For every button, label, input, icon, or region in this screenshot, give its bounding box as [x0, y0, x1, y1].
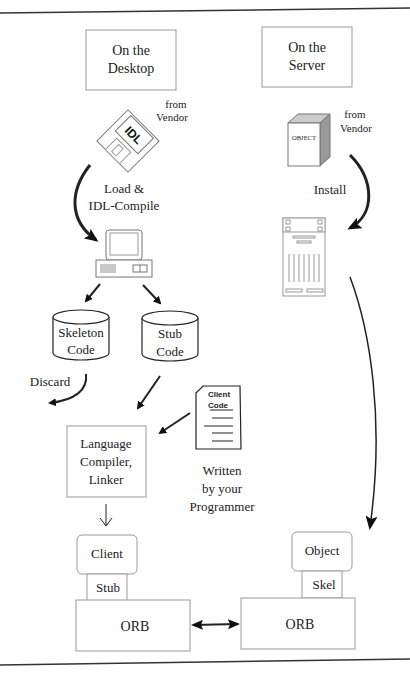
written-label-line1: Written [202, 463, 242, 478]
install-arrow [350, 155, 369, 228]
server-to-object-arrow [350, 277, 376, 527]
load-label: Load & [104, 181, 144, 196]
object-box-label: OBJECT [292, 134, 316, 141]
stub-code-label-line2: Code [156, 344, 184, 359]
desktop-header-line1: On the [112, 43, 150, 58]
bottom-rule [0, 659, 410, 665]
server-header-box: On the Server [262, 27, 352, 87]
skeleton-code-cylinder: Skeleton Code [53, 310, 109, 360]
stub-code-cylinder: Stub Code [142, 311, 198, 361]
server-machine-icon [283, 218, 325, 296]
written-label-line3: Programmer [190, 499, 256, 514]
written-label-line2: by your [202, 481, 243, 496]
compiler-label-line3: Linker [89, 472, 124, 487]
compiler-label-line2: Compiler, [80, 454, 132, 469]
orb-bidirectional-arrow [193, 624, 238, 625]
client-code-label-line1: Client [208, 390, 231, 399]
client-label: Client [91, 546, 123, 561]
client-orb-label: ORB [121, 619, 150, 634]
skeleton-label-line2: Code [67, 342, 95, 357]
skel-label: Skel [312, 577, 336, 592]
compiler-label-line1: Language [80, 436, 131, 451]
corba-diagram: On the Desktop On the Server IDL from Ve… [0, 0, 410, 682]
idl-floppy-disk-icon: IDL [97, 110, 159, 172]
idl-from-label: from [165, 98, 187, 110]
desktop-computer-icon [96, 230, 152, 277]
stub-code-label-line1: Stub [158, 326, 182, 341]
client-stack: Client Stub ORB [76, 535, 190, 651]
compiler-to-client-arrow [100, 504, 112, 526]
vendor-object-box-icon: OBJECT [288, 114, 330, 166]
skeleton-label-line1: Skeleton [58, 325, 104, 340]
client-code-document-icon: Client Code [196, 386, 241, 449]
client-code-label-line2: Code [208, 401, 229, 410]
stub-to-compiler-arrow [138, 376, 160, 408]
server-orb-label: ORB [286, 617, 315, 632]
client-code-to-compiler-arrow [160, 413, 190, 433]
to-stub-arrow [143, 285, 160, 303]
to-skeleton-arrow [86, 284, 100, 301]
idl-vendor-label: Vendor [156, 111, 188, 123]
language-compiler-box: Language Compiler, Linker [67, 426, 146, 497]
discard-label: Discard [30, 374, 71, 389]
server-header-line2: Server [289, 58, 326, 73]
top-rule [0, 8, 410, 13]
idl-compile-label: IDL-Compile [89, 198, 160, 213]
desktop-header-box: On the Desktop [86, 30, 176, 90]
object-stack: Object Skel ORB [241, 532, 355, 649]
server-header-line1: On the [288, 40, 326, 55]
desktop-header-line2: Desktop [108, 61, 155, 76]
object-label: Object [305, 543, 340, 558]
stub-label: Stub [96, 580, 120, 595]
object-vendor-label: Vendor [340, 122, 372, 134]
install-label: Install [314, 182, 347, 197]
object-from-label: from [344, 108, 366, 120]
